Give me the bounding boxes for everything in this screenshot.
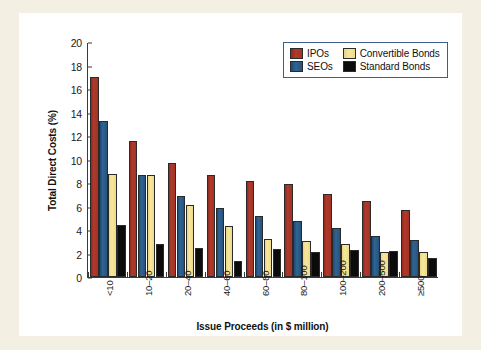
y-tick-label: 4 xyxy=(76,225,88,237)
bar-ipos[interactable] xyxy=(246,181,255,277)
x-tick-label: 100–200 xyxy=(337,284,348,296)
legend-label: Standard Bonds xyxy=(360,61,430,72)
y-tick-label: 2 xyxy=(76,249,88,261)
x-tick-mark xyxy=(88,272,89,277)
bar-ipos[interactable] xyxy=(362,201,371,277)
bar-group: 80–100 xyxy=(282,43,321,277)
x-axis-title: Issue Proceeds (in $ million) xyxy=(87,321,438,332)
bar-std[interactable] xyxy=(195,248,204,277)
bar-seos[interactable] xyxy=(99,121,108,277)
x-tick-label: 20–40 xyxy=(182,284,193,296)
x-tick-mark xyxy=(205,272,206,277)
chart-canvas: Total Direct Costs (%) 02468101214161820… xyxy=(19,13,462,336)
y-axis-title-text: Total Direct Costs (%) xyxy=(47,110,58,211)
x-tick-mark xyxy=(282,272,283,277)
bar-std[interactable] xyxy=(156,244,165,277)
x-tick-mark xyxy=(360,272,361,277)
x-tick-mark xyxy=(166,272,167,277)
bar-std[interactable] xyxy=(428,258,437,277)
bar-group-bars xyxy=(282,43,321,277)
x-tick-label: 200–500 xyxy=(376,284,387,296)
bar-std[interactable] xyxy=(234,261,243,277)
bar-group-bars xyxy=(205,43,244,277)
legend-label: IPOs xyxy=(307,48,329,59)
x-tick-label: 10–20 xyxy=(143,284,154,296)
legend-swatch-seos xyxy=(290,61,303,72)
bar-group-bars xyxy=(321,43,360,277)
bar-seos[interactable] xyxy=(216,208,225,277)
legend-item-seos[interactable]: SEOs xyxy=(290,61,333,72)
figure-frame: Total Direct Costs (%) 02468101214161820… xyxy=(0,0,481,350)
bar-groups: <1010–2020–4040–6060–8080–100100–200200–… xyxy=(88,43,438,277)
y-tick-label: 8 xyxy=(76,178,88,190)
bar-group-bars xyxy=(166,43,205,277)
bar-conv[interactable] xyxy=(225,226,234,277)
y-tick-label: 12 xyxy=(71,131,88,143)
y-tick-label: 20 xyxy=(71,37,88,49)
legend-label: Convertible Bonds xyxy=(360,48,440,59)
y-tick-mark xyxy=(88,278,92,279)
bar-seos[interactable] xyxy=(410,240,419,277)
bar-group-bars xyxy=(360,43,399,277)
bar-conv[interactable] xyxy=(108,174,117,277)
bar-group-bars xyxy=(399,43,438,277)
legend-swatch-conv xyxy=(343,48,356,59)
bar-group: 20–40 xyxy=(166,43,205,277)
bar-ipos[interactable] xyxy=(168,163,177,277)
bar-seos[interactable] xyxy=(138,175,147,277)
bar-group: ≥500 xyxy=(399,43,438,277)
y-tick-label: 10 xyxy=(71,155,88,167)
x-tick-mark xyxy=(127,272,128,277)
bar-std[interactable] xyxy=(117,225,126,277)
y-tick-label: 0 xyxy=(76,272,88,284)
bar-std[interactable] xyxy=(311,252,320,277)
bar-std[interactable] xyxy=(389,251,398,277)
bar-conv[interactable] xyxy=(186,205,195,277)
bar-ipos[interactable] xyxy=(401,210,410,277)
x-tick-label: <10 xyxy=(104,284,115,296)
plot-area: 02468101214161820 <1010–2020–4040–6060–8… xyxy=(87,43,438,278)
bar-ipos[interactable] xyxy=(207,175,216,277)
x-tick-label: 60–80 xyxy=(260,284,271,296)
legend-item-ipos[interactable]: IPOs xyxy=(290,48,333,59)
bar-std[interactable] xyxy=(273,249,282,277)
bar-group: 40–60 xyxy=(205,43,244,277)
y-tick-label: 16 xyxy=(71,84,88,96)
bar-group: 100–200 xyxy=(321,43,360,277)
legend-label: SEOs xyxy=(307,61,333,72)
bar-group-bars xyxy=(88,43,127,277)
x-tick-label: ≥500 xyxy=(415,284,426,296)
bar-seos[interactable] xyxy=(177,196,186,277)
legend-item-std[interactable]: Standard Bonds xyxy=(343,61,440,72)
x-tick-label: 40–60 xyxy=(221,284,232,296)
y-tick-label: 6 xyxy=(76,202,88,214)
chart-legend: IPOsConvertible BondsSEOsStandard Bonds xyxy=(283,42,448,78)
legend-item-conv[interactable]: Convertible Bonds xyxy=(343,48,440,59)
bar-ipos[interactable] xyxy=(129,141,138,277)
bar-group: 200–500 xyxy=(360,43,399,277)
y-tick-label: 18 xyxy=(71,61,88,73)
bar-ipos[interactable] xyxy=(323,194,332,277)
bar-group-bars xyxy=(127,43,166,277)
bar-conv[interactable] xyxy=(147,175,156,277)
bar-group: <10 xyxy=(88,43,127,277)
bar-group: 10–20 xyxy=(127,43,166,277)
bar-group-bars xyxy=(244,43,283,277)
y-tick-label: 14 xyxy=(71,108,88,120)
bar-ipos[interactable] xyxy=(284,184,293,277)
legend-swatch-ipos xyxy=(290,48,303,59)
bar-conv[interactable] xyxy=(419,252,428,277)
bar-group: 60–80 xyxy=(244,43,283,277)
bar-std[interactable] xyxy=(350,250,359,277)
x-tick-mark xyxy=(399,272,400,277)
x-tick-label: 80–100 xyxy=(298,284,309,296)
x-tick-mark xyxy=(321,272,322,277)
x-tick-mark xyxy=(244,272,245,277)
y-axis-title: Total Direct Costs (%) xyxy=(45,43,59,278)
bar-seos[interactable] xyxy=(255,216,264,277)
bar-ipos[interactable] xyxy=(90,77,99,277)
legend-swatch-std xyxy=(343,61,356,72)
